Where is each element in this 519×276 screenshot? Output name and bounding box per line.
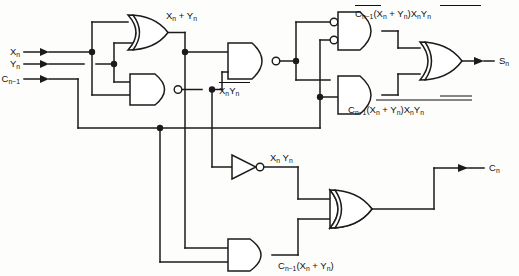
output-carry-label: Cn [489,162,500,174]
nand-bubble-2 [272,57,280,65]
junction-y [111,61,117,67]
nandxy-output-label: XnYn [219,83,250,97]
and-top-bubble-1 [330,18,338,26]
input-y-label: Yn [10,58,20,70]
input-cin-label: Cn−1 [2,73,21,85]
or-gate-sum [420,42,494,80]
and-carry-output-label: Cn−1(Xn + Yn) [278,260,334,272]
input-y-arrow [40,60,49,68]
inverter-output-label: Xn Yn [270,152,293,164]
svg-text:Cn−1(Xn + Yn)XnYn: Cn−1(Xn + Yn)XnYn [355,8,431,20]
input-x-arrow [40,48,49,56]
or-gate-xy [128,15,185,52]
and-top-output-label: Cn−1(Xn + Yn)XnYn [355,6,481,20]
logic-circuit-diagram: Xn Yn Cn−1 Xn + Yn [0,0,519,276]
output-sum-label: Sn [499,55,509,67]
junction-x [89,49,95,55]
input-x-label: Xn [10,46,20,58]
nand-bubble-1 [174,86,182,94]
sum-arrow [474,57,484,65]
or-output-label: Xn + Yn [166,10,197,22]
or-gate-carry [330,164,484,228]
inverter-bubble [256,163,264,171]
and-top-bubble-2 [330,36,338,44]
nand-gate-xy [130,74,222,105]
input-y: Yn [10,58,114,70]
input-cin-arrow [40,75,49,83]
input-x: Xn [10,46,92,58]
circuit-canvas: Xn Yn Cn−1 Xn + Yn [0,0,519,276]
svg-text:XnYn: XnYn [219,85,239,97]
carry-arrow [458,164,468,172]
